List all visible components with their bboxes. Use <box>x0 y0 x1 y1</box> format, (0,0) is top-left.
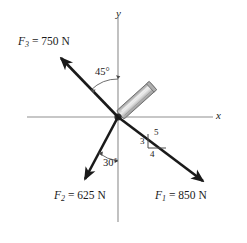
force-magnitude-f3: 750 N <box>41 35 69 47</box>
force-equals-f3: = <box>29 35 41 47</box>
force-label-f2: F2 = 625 N <box>54 190 106 203</box>
angle-label-30: 30° <box>103 158 118 169</box>
x-axis-label: x <box>216 110 221 121</box>
angle-arc-45 <box>91 75 120 93</box>
force-vectors <box>61 58 203 181</box>
y-axis-label: y <box>116 8 121 19</box>
force-magnitude-f2: 625 N <box>77 189 105 201</box>
force-label-f3: F3 = 750 N <box>18 36 70 49</box>
angle-label-45: 45° <box>95 67 110 78</box>
force-vector-f2 <box>85 117 118 179</box>
force-magnitude-f1: 850 N <box>178 189 206 201</box>
force-vector-f1 <box>118 117 203 181</box>
force-symbol-f3: F <box>18 35 25 47</box>
force-equals-f2: = <box>65 189 77 201</box>
bracket-rod <box>116 81 156 119</box>
force-diagram-figure: F3 = 750 N F2 = 625 N F1 = 850 N x y 45°… <box>0 0 247 243</box>
force-symbol-f2: F <box>54 189 61 201</box>
triangle-label-5: 5 <box>154 128 159 137</box>
force-label-f1: F1 = 850 N <box>155 190 207 203</box>
force-equals-f1: = <box>166 189 178 201</box>
triangle-label-4: 4 <box>150 150 155 159</box>
triangle-label-3: 3 <box>140 137 145 146</box>
force-symbol-f1: F <box>155 189 162 201</box>
